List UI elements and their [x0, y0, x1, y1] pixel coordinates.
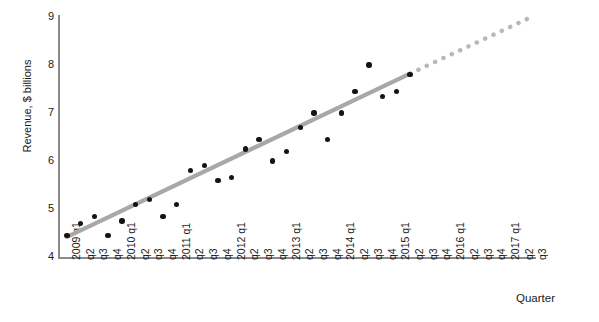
data-point — [298, 125, 303, 130]
revenue-scatter-chart: 456789 Revenue, $ billions 2009 q1q2q3q4… — [0, 0, 599, 322]
x-tick-label: 2009 q1 — [71, 222, 82, 260]
data-point — [105, 233, 110, 238]
x-tick-label: q2 — [524, 248, 535, 260]
data-point — [64, 233, 69, 238]
x-tick-label: q3 — [208, 248, 219, 260]
x-tick-label: 2013 q1 — [291, 222, 302, 260]
x-tick-label: q3 — [263, 248, 274, 260]
data-point — [215, 178, 220, 183]
x-tick-label: q2 — [304, 248, 315, 260]
x-tick-label: q3 — [318, 248, 329, 260]
x-tick-label: q2 — [249, 248, 260, 260]
x-tick-label: q4 — [277, 248, 288, 260]
x-tick-label: q3 — [98, 248, 109, 260]
x-axis-title: Quarter — [516, 292, 555, 304]
x-tick-label: q3 — [153, 248, 164, 260]
x-tick-label: 2012 q1 — [236, 222, 247, 260]
x-tick-label: q2 — [359, 248, 370, 260]
x-tick-label: q4 — [496, 248, 507, 260]
x-tick-label: q4 — [332, 248, 343, 260]
x-axis-tick-labels: 2009 q1q2q3q42010 q1q2q3q42011 q1q2q3q42… — [0, 0, 599, 322]
x-tick-label: q2 — [469, 248, 480, 260]
x-tick-label: q3 — [537, 248, 548, 260]
data-point — [92, 214, 97, 219]
data-point — [256, 137, 261, 142]
x-tick-label: 2015 q1 — [400, 222, 411, 260]
x-tick-label: q3 — [373, 248, 384, 260]
x-tick-label: q3 — [483, 248, 494, 260]
x-tick-label: q4 — [112, 248, 123, 260]
data-point — [160, 214, 165, 219]
data-point — [119, 218, 124, 223]
data-point — [311, 110, 316, 115]
x-tick-label: q4 — [441, 248, 452, 260]
x-tick-label: 2016 q1 — [455, 222, 466, 260]
data-point — [339, 110, 344, 115]
data-point — [352, 89, 357, 94]
x-tick-label: q2 — [194, 248, 205, 260]
data-point — [366, 62, 371, 67]
x-tick-label: q4 — [387, 248, 398, 260]
x-tick-label: 2014 q1 — [345, 222, 356, 260]
x-tick-label: q2 — [414, 248, 425, 260]
x-tick-label: 2010 q1 — [126, 222, 137, 260]
x-tick-label: q4 — [167, 248, 178, 260]
x-tick-label: q2 — [140, 248, 151, 260]
x-tick-label: 2011 q1 — [181, 223, 192, 260]
x-tick-label: q4 — [222, 248, 233, 260]
x-tick-label: q3 — [428, 248, 439, 260]
x-tick-label: q2 — [85, 248, 96, 260]
data-point — [407, 72, 412, 77]
data-point — [394, 89, 399, 94]
x-tick-label: 2017 q1 — [510, 222, 521, 260]
data-point — [243, 146, 248, 151]
data-point — [380, 94, 385, 99]
data-point — [147, 197, 152, 202]
